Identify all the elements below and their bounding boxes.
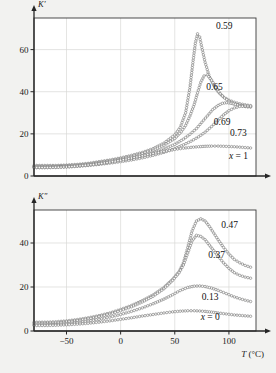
x-tick-label: 100 <box>222 336 236 346</box>
curve-annotation: 0.47 <box>221 220 238 230</box>
x-tick-label: −50 <box>59 336 74 346</box>
curve-annotation: 0.59 <box>216 21 233 31</box>
curve-annotation: 0.13 <box>202 292 219 302</box>
x-axis-label: T (°C) <box>241 349 264 359</box>
chart-svg-bottom: 02040−50050100T (°C)K″0.470.370.13x = 0 <box>0 186 276 373</box>
x-tick-label: 50 <box>170 336 180 346</box>
curve-annotation: 0.73 <box>230 128 247 138</box>
y-tick-label: 40 <box>20 238 30 248</box>
y-tick-label: 0 <box>24 326 29 336</box>
y-tick-label: 40 <box>20 87 30 97</box>
y-axis-label: K″ <box>37 191 48 201</box>
chart-panel-dielectric-constant: 0204060K′0.590.650.690.73x = 1 <box>0 0 276 190</box>
curve-annotation: 0.37 <box>208 250 225 260</box>
chart-panel-dielectric-loss: 02040−50050100T (°C)K″0.470.370.13x = 0 <box>0 186 276 373</box>
y-tick-label: 20 <box>20 129 30 139</box>
y-tick-label: 0 <box>24 171 29 181</box>
y-tick-label: 60 <box>20 45 30 55</box>
curve-annotation: 0.69 <box>214 117 231 127</box>
curve-annotation: x = 0 <box>200 312 220 322</box>
y-axis-label: K′ <box>37 0 46 9</box>
curve-annotation: 0.65 <box>206 82 223 92</box>
chart-svg-top: 0204060K′0.590.650.690.73x = 1 <box>0 0 276 190</box>
curve-annotation: x = 1 <box>228 151 248 161</box>
x-tick-label: 0 <box>118 336 123 346</box>
y-tick-label: 20 <box>20 282 30 292</box>
dielectric-vs-temperature-figure: 0204060K′0.590.650.690.73x = 1 02040−500… <box>0 0 276 373</box>
